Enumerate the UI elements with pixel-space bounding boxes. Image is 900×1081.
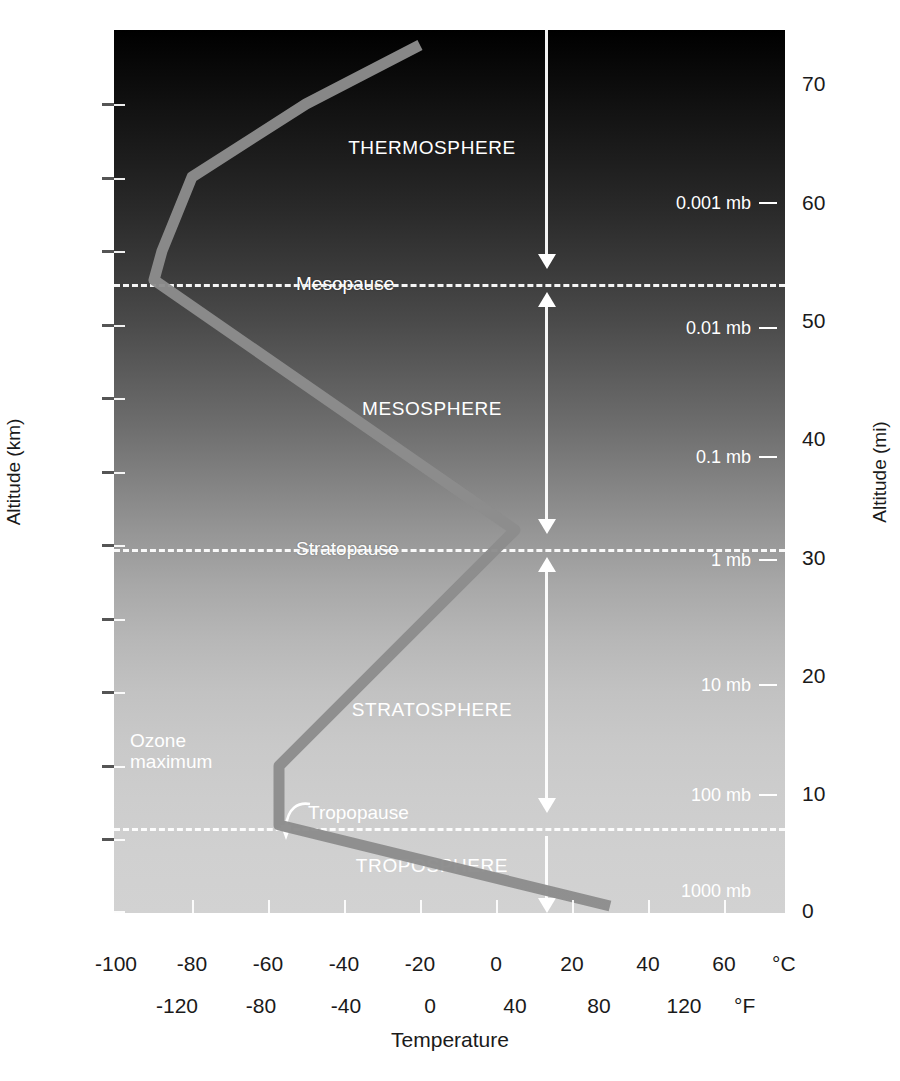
outer-tick-km-110 [102,103,114,106]
axis-label-mi-10: 10 [802,782,862,806]
tick-inner-km-70 [114,398,125,400]
tick-temp-20 [572,900,574,913]
celsius-label-60: 60 [712,952,735,976]
fahrenheit-label--120: -120 [156,994,198,1018]
tick-inner-km-10 [114,839,125,841]
tick-inner-km-110 [114,104,125,106]
left-axis-title: Altitude (km) [3,419,25,526]
tick-inner-km-30 [114,692,125,694]
plot-area: Mesopause Stratopause THERMOSPHERE MESOS… [114,30,785,913]
celsius-label--60: -60 [253,952,283,976]
tick-temp--80 [192,900,194,913]
outer-tick-km-10 [102,838,114,841]
outer-tick-km-40 [102,618,114,621]
celsius-label-0: 0 [490,952,502,976]
fahrenheit-label-0: 0 [424,994,436,1018]
outer-tick-km-70 [102,397,114,400]
fahrenheit-label-40: 40 [503,994,526,1018]
fahrenheit-label--80: -80 [246,994,276,1018]
fahrenheit-label--40: -40 [331,994,361,1018]
fahrenheit-label-120: 120 [666,994,701,1018]
axis-label-mi-20: 20 [802,664,862,688]
tick-inner-km-20 [114,766,125,768]
axis-label-mi-50: 50 [802,309,862,333]
tick-inner-km-90 [114,251,125,253]
chart-figure: Mesopause Stratopause THERMOSPHERE MESOS… [0,0,900,1081]
outer-tick-km-100 [102,177,114,180]
tick-temp-40 [648,900,650,913]
outer-tick-km-20 [102,765,114,768]
axis-label-mi-60: 60 [802,191,862,215]
outer-tick-km-60 [102,471,114,474]
tick-inner-km-60 [114,472,125,474]
celsius-label-20: 20 [560,952,583,976]
fahrenheit-scale-row: -120 -80 -40 0 40 80 120 °F [0,994,900,1020]
fahrenheit-unit-label: °F [734,994,755,1018]
tick-temp-60 [724,900,726,913]
axis-label-mi-40: 40 [802,427,862,451]
celsius-scale-row: -100 -80 -60 -40 -20 0 20 40 60 °C [0,952,900,978]
outer-tick-km-30 [102,691,114,694]
temperature-profile-curve [114,30,785,913]
tick-inner-km-0 [114,911,125,913]
axis-label-mi-70: 70 [802,72,862,96]
tick-temp--20 [420,900,422,913]
tick-inner-km-50 [114,545,125,547]
tick-inner-km-80 [114,325,125,327]
tick-inner-km-40 [114,619,125,621]
tick-temp-0 [496,900,498,913]
celsius-label-40: 40 [636,952,659,976]
axis-label-mi-0: 0 [802,899,862,923]
celsius-label--100: -100 [95,952,137,976]
celsius-label--80: -80 [177,952,207,976]
tick-temp--60 [268,900,270,913]
outer-tick-km-80 [102,324,114,327]
right-axis-title: Altitude (mi) [869,421,891,522]
celsius-label--20: -20 [405,952,435,976]
celsius-unit-label: °C [772,952,796,976]
celsius-label--40: -40 [329,952,359,976]
tick-temp--40 [344,900,346,913]
tick-inner-km-100 [114,178,125,180]
axis-label-mi-30: 30 [802,546,862,570]
fahrenheit-label-80: 80 [587,994,610,1018]
outer-tick-km-90 [102,250,114,253]
bottom-axis-title: Temperature [391,1028,509,1052]
outer-tick-km-50 [102,544,114,547]
